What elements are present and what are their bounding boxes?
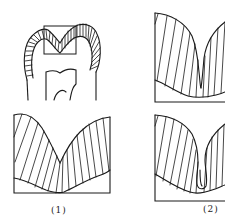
label-panel-1: (1) <box>51 205 67 215</box>
tooth-diagram <box>24 24 100 100</box>
fissure-diagram-2-top <box>155 13 225 102</box>
fissure-diagram-1 <box>14 114 110 193</box>
fissure-diagram-2-bottom <box>155 115 225 201</box>
figure-canvas <box>0 0 225 221</box>
label-panel-2: (2) <box>203 204 219 214</box>
